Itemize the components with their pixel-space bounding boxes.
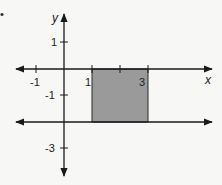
x-tick-label-3: 3 <box>139 76 145 88</box>
y-tick-label-1: 1 <box>51 36 57 48</box>
x-tick-label-1: 1 <box>85 76 91 88</box>
y-tick-label-neg3: -3 <box>45 142 55 154</box>
y-tick-label-neg1: -1 <box>45 89 55 101</box>
x-axis-label: x <box>204 73 212 87</box>
x-tick-label-neg1: -1 <box>30 76 40 88</box>
coordinate-plane-diagram: • -1 1 3 1 -1 -3 x y <box>0 0 222 185</box>
y-axis-label: y <box>51 11 59 25</box>
bullet-marker: • <box>0 8 4 20</box>
